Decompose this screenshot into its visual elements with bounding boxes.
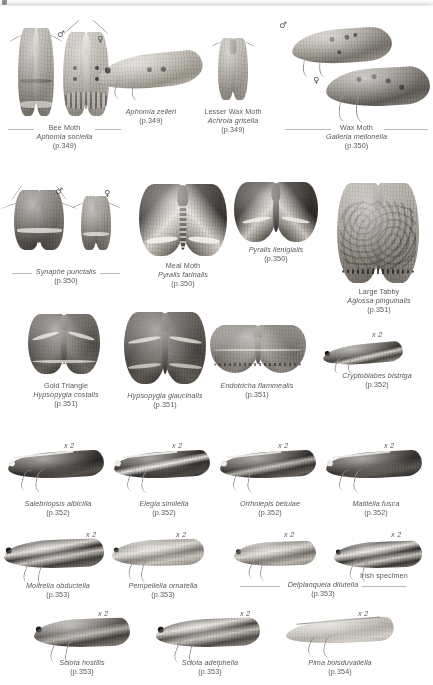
caption-galleria-mellonella: Wax Moth Galleria mellonella (p.350) xyxy=(285,124,428,150)
specimen-hypsopygia-costalis xyxy=(28,314,100,374)
specimen-pempeliella-ornatella xyxy=(112,538,205,567)
page-reference: (p.351) xyxy=(330,306,428,315)
page-reference: (p.353) xyxy=(36,668,128,677)
page-reference: (p.350) xyxy=(136,280,230,289)
caption-endotricha-flammealis: Endotricha flammealis (p.351) xyxy=(205,382,309,400)
magnification-label: x 2 xyxy=(278,441,289,450)
caption-matilella-fusca: Matilella fusca (p.352) xyxy=(330,500,422,518)
page-reference: (p.353) xyxy=(160,668,260,677)
magnification-label: x 2 xyxy=(391,530,402,539)
sex-symbol-male: ♂ xyxy=(55,186,63,196)
caption-aphomia-zelleri: Aphomia zelleri (p.349) xyxy=(103,108,199,126)
caption-synaphe-punctalis: Synaphe punctalis (p.350) xyxy=(10,268,122,286)
page-reference: (p.350) xyxy=(285,142,428,151)
caption-moitrelia-obductella: Moitrelia obductella (p.353) xyxy=(8,582,108,600)
page-reference: (p.351) xyxy=(20,400,112,409)
specimen-delplanqueia-dilutella-2-irish xyxy=(334,540,423,569)
specimen-ortholepis-betulae xyxy=(219,450,316,481)
specimen-delplanqueia-dilutella-1 xyxy=(234,541,317,568)
specimen-aglossa-pinguinalis xyxy=(337,183,419,283)
specimen-synaphe-punctalis-female xyxy=(81,196,111,250)
magnification-label: x 2 xyxy=(172,441,183,450)
specimen-cryptoblabes-bistriga xyxy=(322,341,403,368)
caption-hypsopygia-costalis: Gold Triangle Hypsopygia costalis (p.351… xyxy=(20,382,112,408)
sex-symbol-male: ♂ xyxy=(279,20,287,30)
magnification-label: x 2 xyxy=(64,441,75,450)
page-reference: (p.353) xyxy=(238,590,408,599)
page-reference: (p.353) xyxy=(8,591,108,600)
specimen-pyralis-lienigialis xyxy=(234,182,318,242)
caption-delplanqueia-dilutella: Delplanqueia dilutella (p.353) xyxy=(238,581,408,599)
sex-symbol-female: ♀ xyxy=(104,188,110,198)
caption-ortholepis-betulae: Ortholepis betulae (p.352) xyxy=(222,500,318,518)
specimen-matilella-fusca xyxy=(325,450,422,481)
caption-achroia-grisella: Lesser Wax Moth Achroia grisella (p.349) xyxy=(186,108,280,134)
caption-elegia-similella: Elegia similella (p.352) xyxy=(118,500,210,518)
caption-pyralis-lienigialis: Pyralis lienigialis (p.350) xyxy=(231,246,321,264)
caption-pima-boisduvaliella: Pima boisduvaliella (p.354) xyxy=(288,659,392,677)
specimen-aphomia-zelleri xyxy=(97,49,205,94)
page-reference: (p.350) xyxy=(231,255,321,264)
caption-salebriopsis-albicilla: Salebriopsis albicilla (p.352) xyxy=(8,500,108,518)
magnification-label: x 2 xyxy=(384,441,395,450)
scan-artifact xyxy=(2,0,7,5)
magnification-label: x 2 xyxy=(284,530,295,539)
page-reference: (p.349) xyxy=(103,117,199,126)
field-guide-plate: ♂ ♀ Bee Moth Aphomia sociella (p.349) Ap… xyxy=(0,0,433,685)
page-reference: (p.351) xyxy=(114,401,216,410)
magnification-label: x 2 xyxy=(98,609,109,618)
specimen-synaphe-punctalis-male xyxy=(14,190,64,250)
magnification-label: x 2 xyxy=(372,330,383,339)
specimen-hypsopygia-glaucinalis xyxy=(124,312,206,384)
caption-pempeliella-ornatella: Pempeliella ornatella (p.353) xyxy=(112,582,214,600)
specimen-moitrelia-obductella xyxy=(4,538,105,569)
page-reference: (p.352) xyxy=(222,509,318,518)
page-reference: (p.352) xyxy=(325,381,429,390)
annotation-irish-specimen: Irish specimen xyxy=(360,571,408,580)
magnification-label: x 2 xyxy=(176,530,187,539)
specimen-endotricha-flammealis xyxy=(210,325,306,373)
specimen-galleria-mellonella-female xyxy=(325,65,431,108)
specimen-pima-boisduvaliella xyxy=(285,616,394,646)
specimen-galleria-mellonella-male xyxy=(291,26,393,67)
scan-edge-line xyxy=(8,4,428,5)
caption-aglossa-pinguinalis: Large Tabby Aglossa pinguinalis (p.351) xyxy=(330,288,428,314)
page-reference: (p.352) xyxy=(118,509,210,518)
page-reference: (p.351) xyxy=(205,391,309,400)
page-reference: (p.354) xyxy=(288,668,392,677)
caption-sciota-hostilis: Sciota hostilis (p.353) xyxy=(36,659,128,677)
caption-sciota-adelphella: Sciota adelphella (p.353) xyxy=(160,659,260,677)
caption-aphomia-sociella: Bee Moth Aphomia sociella (p.349) xyxy=(8,124,121,150)
specimen-aphomia-sociella-male xyxy=(18,28,54,116)
page-reference: (p.353) xyxy=(112,591,214,600)
specimen-achroia-grisella xyxy=(218,38,248,100)
page-reference: (p.350) xyxy=(10,277,122,286)
page-reference: (p.352) xyxy=(330,509,422,518)
sex-symbol-female: ♀ xyxy=(97,34,103,44)
caption-pyralis-farinalis: Meal Moth Pyralis farinalis (p.350) xyxy=(136,262,230,288)
caption-hypsopygia-glaucinalis: Hypsopygia glaucinalis (p.351) xyxy=(114,392,216,410)
page-reference: (p.352) xyxy=(8,509,108,518)
specimen-sciota-hostilis xyxy=(34,617,131,648)
specimen-pyralis-farinalis xyxy=(139,184,227,256)
specimen-sciota-adelphella xyxy=(156,617,261,649)
sex-symbol-female: ♀ xyxy=(313,75,319,85)
specimen-salebriopsis-albicilla xyxy=(7,450,104,481)
caption-cryptoblabes-bistriga: Cryptoblabes bistriga (p.352) xyxy=(325,372,429,390)
page-reference: (p.349) xyxy=(8,142,121,151)
page-reference: (p.349) xyxy=(186,126,280,135)
specimen-elegia-similella xyxy=(113,450,210,481)
